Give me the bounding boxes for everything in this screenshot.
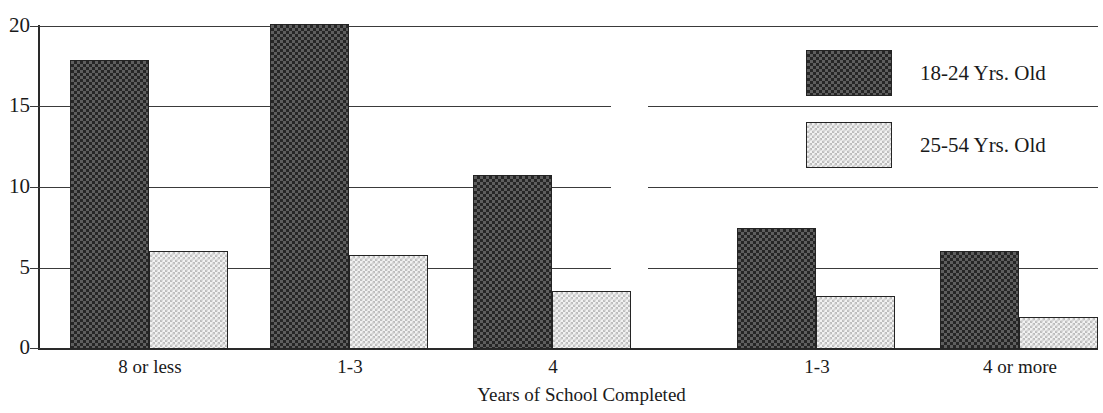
bar-18-24-g5 [940, 251, 1019, 350]
x-label-3: 4 [473, 356, 633, 378]
bar-25-54-g1 [149, 251, 228, 350]
bar-25-54-g2 [349, 255, 428, 349]
bar-18-24-g1 [70, 60, 149, 349]
bar-25-54-g5 [1019, 317, 1098, 349]
bar-18-24-g4 [737, 228, 816, 349]
x-label-4: 1-3 [737, 356, 897, 378]
legend-label-25-54: 25-54 Yrs. Old [920, 133, 1046, 157]
legend-item-25-54: 25-54 Yrs. Old [806, 122, 1046, 168]
x-label-1: 8 or less [70, 356, 230, 378]
bar-18-24-g2 [270, 24, 349, 349]
x-label-2: 1-3 [270, 356, 430, 378]
legend-swatch-25-54 [806, 122, 892, 168]
bar-chart: 20 15 10 5 0 8 or less 1 [0, 0, 1103, 413]
bar-group-2 [270, 0, 430, 349]
legend-label-18-24: 18-24 Yrs. Old [920, 61, 1046, 85]
chart-legend: 18-24 Yrs. Old 25-54 Yrs. Old [806, 50, 1046, 194]
legend-swatch-18-24 [806, 50, 892, 96]
legend-item-18-24: 18-24 Yrs. Old [806, 50, 1046, 96]
x-axis-title: Years of School Completed [0, 384, 1103, 406]
bar-group-1 [70, 0, 230, 349]
x-axis-title-text: Years of School Completed [477, 384, 686, 406]
bar-25-54-g3 [552, 291, 631, 349]
bar-group-3 [473, 0, 633, 349]
bar-25-54-g4 [816, 296, 895, 349]
bar-18-24-g3 [473, 175, 552, 349]
x-label-5: 4 or more [940, 356, 1100, 378]
